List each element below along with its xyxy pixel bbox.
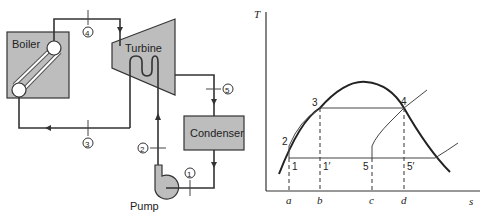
line-2-3 [289, 110, 318, 158]
tick-label-c: c [369, 194, 374, 206]
point-label-1: 1 [292, 161, 298, 172]
turbine-label: Turbine [125, 42, 162, 54]
condenser: Condenser [184, 116, 244, 150]
flow-arrow-icon [211, 99, 217, 105]
point-label-4: 4 [401, 96, 407, 107]
condenser-label: Condenser [190, 127, 244, 139]
point-label-2: 2 [282, 136, 288, 147]
boiler-label: Boiler [12, 38, 40, 50]
flow-arrow-icon [155, 113, 161, 120]
tick-label-b: b [317, 194, 323, 206]
state-label-5: 5 [225, 86, 230, 95]
ts-diagram: T s 1 1′ 2 3 4 5 5′ a b c d [254, 8, 480, 207]
boiler-steam-drum [47, 41, 61, 55]
tick-label-d: d [401, 194, 407, 206]
state-label-1: 1 [187, 170, 192, 179]
flow-arrow-icon [211, 162, 217, 168]
flow-arrow-icon [45, 125, 51, 131]
point-label-1prime: 1′ [323, 161, 331, 172]
state-label-3: 3 [85, 140, 90, 149]
t-axis-label: T [254, 8, 261, 20]
boiler: Boiler [7, 32, 69, 98]
boiler-water-drum [12, 83, 26, 97]
cycle-schematic: Boiler Turbine Condenser Pump [7, 10, 244, 212]
s-axis-label: s [469, 195, 473, 207]
point-label-5prime: 5′ [407, 161, 415, 172]
isobar-superheat [435, 143, 458, 158]
point-label-5: 5 [363, 161, 369, 172]
flow-arrow-icon [117, 27, 123, 33]
point-label-3: 3 [312, 97, 318, 108]
state-label-4: 4 [85, 29, 90, 38]
tick-label-a: a [286, 194, 292, 206]
rankine-cycle-figure: Boiler Turbine Condenser Pump [0, 0, 487, 215]
pump-label: Pump [130, 200, 159, 212]
state-label-2: 2 [140, 145, 145, 154]
